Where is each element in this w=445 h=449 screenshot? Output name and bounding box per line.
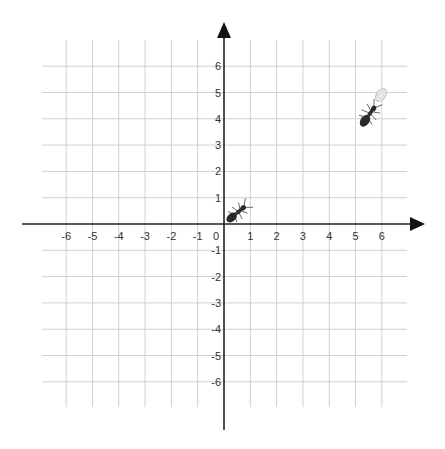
ant-food-icon	[354, 97, 386, 131]
food-crumb-icon	[373, 87, 388, 104]
x-tick-label: -2	[167, 231, 177, 242]
x-tick-label: -1	[193, 231, 203, 242]
x-tick-label: 0	[213, 231, 219, 242]
x-tick-label: -3	[140, 231, 150, 242]
y-tick-label: -3	[211, 297, 221, 308]
x-tick-label: 1	[247, 231, 253, 242]
ant-origin-icon	[222, 197, 254, 228]
y-tick-label: -6	[211, 376, 221, 387]
y-tick-label: 3	[215, 140, 221, 151]
x-tick-label: 3	[300, 231, 306, 242]
y-tick-label: 5	[215, 87, 221, 98]
x-tick-label: 2	[274, 231, 280, 242]
x-tick-label: -4	[114, 231, 124, 242]
coordinate-plane	[0, 0, 445, 449]
axes	[22, 22, 425, 430]
y-tick-label: 4	[215, 113, 221, 124]
y-tick-label: -5	[211, 350, 221, 361]
x-tick-label: 4	[326, 231, 332, 242]
x-tick-label: -6	[61, 231, 71, 242]
x-tick-label: -5	[88, 231, 98, 242]
y-tick-label: -4	[211, 324, 221, 335]
x-axis-arrow-icon	[410, 217, 425, 231]
y-axis-arrow-icon	[217, 22, 231, 38]
y-tick-label: 6	[215, 61, 221, 72]
y-tick-label: 1	[215, 192, 221, 203]
x-tick-label: 5	[352, 231, 358, 242]
y-tick-label: 2	[215, 166, 221, 177]
y-tick-label: -1	[211, 245, 221, 256]
x-tick-label: 6	[379, 231, 385, 242]
y-tick-label: -2	[211, 271, 221, 282]
